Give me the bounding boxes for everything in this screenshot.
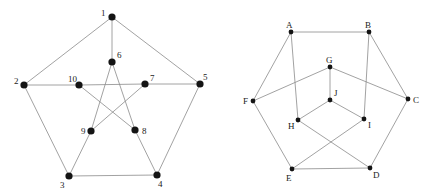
node-label-5: 5 [203, 72, 208, 82]
node-label-E: E [286, 173, 292, 183]
node-6 [108, 58, 115, 65]
edge-8-4 [135, 130, 157, 175]
node-label-3: 3 [60, 180, 65, 190]
numbered-graph: 12345678910 [14, 8, 208, 190]
node-label-I: I [368, 120, 371, 130]
node-7 [141, 80, 148, 87]
node-label-8: 8 [142, 126, 147, 136]
node-label-D: D [373, 170, 380, 180]
edge-1-5 [112, 17, 200, 84]
node-label-H: H [288, 121, 295, 131]
edge-B-I [364, 32, 369, 119]
node-label-B: B [365, 20, 371, 30]
node-E [290, 167, 295, 172]
node-label-J: J [334, 88, 338, 98]
node-9 [87, 127, 94, 134]
lettered-graph: ABCDEFGHIJ [243, 20, 419, 183]
node-F [251, 99, 256, 104]
edge-H-D [298, 120, 370, 168]
node-H [296, 118, 301, 123]
edge-J-H [298, 100, 330, 120]
edge-2-3 [24, 85, 69, 176]
node-label-10: 10 [68, 74, 78, 84]
node-1 [108, 13, 115, 20]
edge-7-9 [91, 84, 145, 131]
edge-6-9 [91, 62, 112, 131]
node-label-F: F [243, 96, 248, 106]
edge-9-3 [69, 131, 91, 176]
node-3 [65, 172, 72, 179]
node-label-C: C [413, 95, 419, 105]
node-G [328, 65, 333, 70]
edge-J-I [330, 100, 364, 119]
node-8 [131, 126, 138, 133]
edge-G-C [330, 67, 408, 99]
node-4 [153, 171, 160, 178]
node-2 [20, 81, 27, 88]
node-label-G: G [326, 55, 333, 65]
edge-3-4 [69, 175, 157, 176]
edge-G-F [253, 67, 330, 101]
node-label-9: 9 [81, 126, 86, 136]
node-I [362, 117, 367, 122]
node-label-2: 2 [14, 76, 19, 86]
edge-10-7 [79, 84, 145, 85]
node-label-4: 4 [158, 179, 163, 189]
node-label-6: 6 [117, 50, 122, 60]
edge-A-H [291, 32, 298, 120]
graph-canvas: 12345678910 ABCDEFGHIJ [0, 0, 432, 194]
edge-10-8 [79, 85, 135, 130]
node-label-7: 7 [150, 73, 155, 83]
edge-E-D [292, 168, 370, 169]
node-C [406, 97, 411, 102]
node-B [367, 30, 372, 35]
edge-F-E [253, 101, 292, 169]
node-A [289, 30, 294, 35]
edge-B-C [369, 32, 408, 99]
node-J [328, 98, 333, 103]
node-label-1: 1 [101, 8, 106, 18]
edge-I-E [292, 119, 364, 169]
edge-C-D [370, 99, 408, 168]
node-D [368, 166, 373, 171]
edge-4-5 [157, 84, 200, 175]
edge-A-F [253, 32, 291, 101]
node-label-A: A [286, 20, 293, 30]
